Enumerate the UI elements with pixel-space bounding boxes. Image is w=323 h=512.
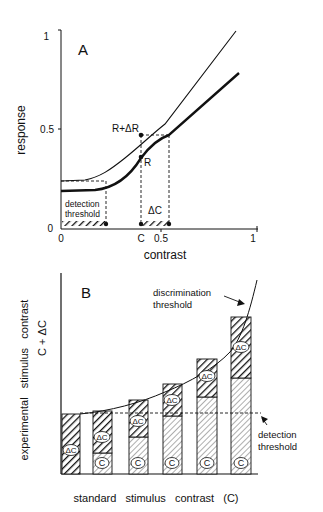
c-plus-dc-dot <box>167 222 171 226</box>
x-tick-05: 0.5 <box>154 233 168 244</box>
detection-dot <box>104 222 108 226</box>
r-plus-dr-label: R+ΔR <box>112 123 139 134</box>
detection-label-b-2: threshold <box>258 441 297 452</box>
panel-b-ylabel-2: C + ΔC <box>36 320 48 356</box>
r-label: R <box>144 157 151 168</box>
detection-label-2: threshold <box>65 209 100 219</box>
panel-a-xlabel: contrast <box>144 248 187 262</box>
panel-b-label: B <box>81 284 91 301</box>
panel-b-xlabel: standard stimulus contrast (C) <box>73 492 238 504</box>
detection-label-b-1: detection <box>258 429 297 440</box>
detection-arrow <box>261 416 268 425</box>
delta-c-hatch <box>141 221 169 226</box>
discrimination-arrow <box>224 296 245 306</box>
discrimination-label-2: threshold <box>153 299 192 310</box>
figure: 1 0.5 0 0 C 0.5 1 A contrast response R+… <box>0 0 323 512</box>
x-tick-c: C <box>137 233 144 244</box>
detection-hatch <box>62 221 106 226</box>
panel-b: B experimental stimulus contrast C + ΔC … <box>18 273 297 504</box>
detection-label-1: detection <box>65 199 100 209</box>
panel-b-ylabel-1: experimental stimulus contrast <box>18 300 30 461</box>
panel-a-ylabel: response <box>14 105 28 155</box>
r-dot <box>139 155 144 160</box>
panel-a-label: A <box>78 41 88 58</box>
svg-text:ΔC: ΔC <box>132 417 143 426</box>
delta-c-label: ΔC <box>148 205 162 216</box>
svg-text:ΔC: ΔC <box>235 343 246 352</box>
svg-text:C: C <box>135 458 142 468</box>
panel-a: 1 0.5 0 0 C 0.5 1 A contrast response R+… <box>14 30 258 262</box>
svg-text:C: C <box>99 458 106 468</box>
discrimination-label-1: discrimination <box>153 287 211 298</box>
y-tick-1: 1 <box>43 31 49 42</box>
svg-text:C: C <box>204 458 211 468</box>
y-tick-0: 0 <box>47 223 53 234</box>
c-dot <box>139 222 143 226</box>
lower-response-curve <box>61 73 239 191</box>
y-tick-05: 0.5 <box>40 124 54 135</box>
svg-text:C: C <box>169 458 176 468</box>
svg-text:ΔC: ΔC <box>65 446 76 455</box>
x-tick-0: 0 <box>58 233 64 244</box>
svg-text:ΔC: ΔC <box>166 396 177 405</box>
svg-text:ΔC: ΔC <box>201 372 212 381</box>
r-plus-dr-dot <box>139 133 144 138</box>
svg-text:C: C <box>238 458 245 468</box>
x-tick-1: 1 <box>250 233 256 244</box>
svg-text:ΔC: ΔC <box>96 433 107 442</box>
bar-1-dc <box>62 414 80 474</box>
